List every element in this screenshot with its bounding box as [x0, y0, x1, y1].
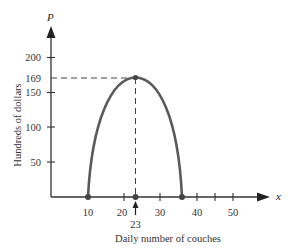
y-tick-50: 50: [31, 157, 42, 168]
y-axis-title: Hundreds of dollars: [12, 83, 23, 166]
x-tick-10: 10: [83, 207, 94, 218]
y-tick-150: 150: [25, 87, 41, 98]
y-tick-169: 169: [25, 73, 41, 84]
x-tick-23: 23: [130, 219, 141, 230]
x-axis-variable: x: [275, 190, 281, 202]
x-tick-50: 50: [228, 207, 239, 218]
root-point-36: [179, 194, 185, 200]
vertex-point: [133, 75, 138, 80]
x-tick-40: 40: [192, 207, 203, 218]
x-axis-title: Daily number of couches: [115, 233, 221, 244]
profit-chart: P x 200 169 150 100 50 Hundreds of dolla…: [0, 0, 297, 250]
arrow-up-icon: [133, 201, 139, 208]
y-axis-variable: P: [46, 11, 54, 23]
y-tick-100: 100: [25, 122, 41, 133]
x-axis-arrow-icon: [257, 193, 270, 202]
y-tick-200: 200: [25, 52, 41, 63]
x-tick-20: 20: [117, 207, 128, 218]
root-point-10: [85, 194, 91, 200]
y-axis-arrow-icon: [47, 26, 56, 38]
x-tick-30: 30: [155, 207, 166, 218]
vertex-x-point-23: [133, 194, 139, 200]
